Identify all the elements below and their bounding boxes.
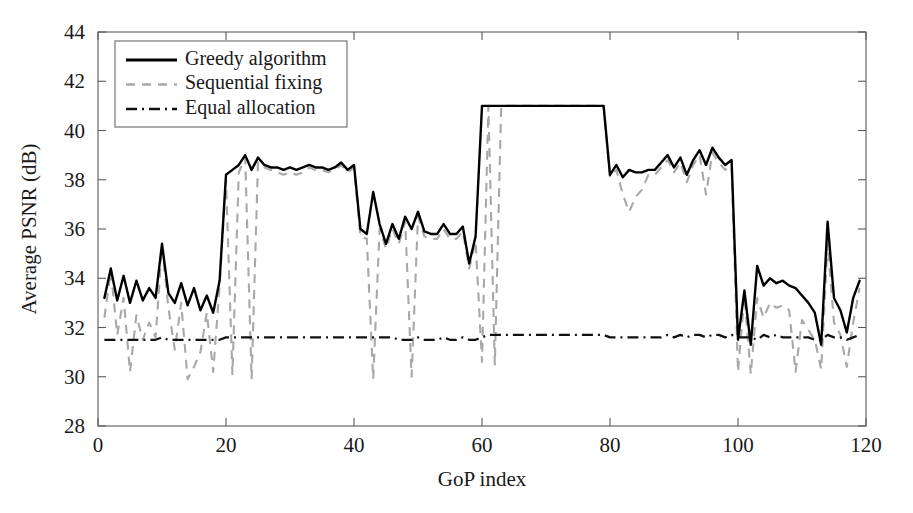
x-tick-label: 80	[600, 433, 621, 457]
legend-label: Greedy algorithm	[185, 47, 327, 70]
y-tick-label: 32	[64, 316, 85, 340]
y-tick-label: 44	[64, 20, 86, 44]
y-tick-label: 34	[64, 266, 86, 290]
series-layer	[104, 106, 859, 379]
figure-container: 283032343638404244020406080100120 GoP in…	[0, 0, 913, 513]
psnr-line-chart: 283032343638404244020406080100120 GoP in…	[0, 0, 913, 513]
y-tick-label: 30	[64, 365, 85, 389]
x-tick-label: 20	[216, 433, 237, 457]
y-tick-label: 40	[64, 119, 85, 143]
y-tick-label: 28	[64, 414, 85, 438]
x-tick-label: 60	[472, 433, 493, 457]
y-axis-title: Average PSNR (dB)	[17, 143, 41, 314]
x-axis-title: GoP index	[438, 467, 527, 491]
x-tick-label: 120	[850, 433, 882, 457]
chart-legend: Greedy algorithmSequential fixingEqual a…	[115, 41, 347, 127]
y-tick-label: 36	[64, 217, 85, 241]
y-tick-label: 38	[64, 168, 85, 192]
x-tick-label: 0	[93, 433, 104, 457]
y-tick-label: 42	[64, 69, 85, 93]
x-tick-label: 100	[722, 433, 754, 457]
legend-label: Sequential fixing	[185, 71, 322, 94]
x-tick-label: 40	[344, 433, 365, 457]
legend-label: Equal allocation	[185, 96, 316, 119]
